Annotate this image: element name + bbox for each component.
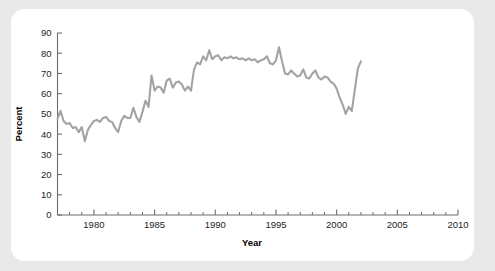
x-tick-label: 1980 bbox=[83, 219, 104, 230]
x-tick-label: 1995 bbox=[265, 219, 286, 230]
y-axis-ticks: 0102030405060708090 bbox=[41, 27, 62, 220]
x-axis-ticks: 1980198519901995200020052010 bbox=[58, 210, 469, 231]
y-tick-label: 10 bbox=[41, 189, 52, 200]
y-tick-label: 70 bbox=[41, 68, 52, 79]
y-tick-label: 30 bbox=[41, 149, 52, 160]
y-tick-label: 80 bbox=[41, 48, 52, 59]
x-tick-label: 2005 bbox=[387, 219, 408, 230]
x-tick-label: 2000 bbox=[326, 219, 347, 230]
chart-figure: 0102030405060708090 19801985199019952000… bbox=[0, 0, 495, 271]
y-tick-label: 60 bbox=[41, 88, 52, 99]
x-tick-label: 1990 bbox=[205, 219, 226, 230]
y-axis-title: Percent bbox=[13, 106, 24, 142]
x-tick-label: 1985 bbox=[144, 219, 165, 230]
y-tick-label: 20 bbox=[41, 169, 52, 180]
x-axis-title: Year bbox=[242, 237, 262, 248]
screenshot-root: 0102030405060708090 19801985199019952000… bbox=[0, 0, 495, 271]
y-tick-label: 0 bbox=[46, 209, 51, 220]
y-tick-label: 50 bbox=[41, 108, 52, 119]
y-tick-label: 90 bbox=[41, 27, 52, 38]
line-chart: 0102030405060708090 19801985199019952000… bbox=[0, 0, 495, 271]
data-series-line bbox=[58, 47, 361, 141]
y-tick-label: 40 bbox=[41, 129, 52, 140]
x-tick-label: 2010 bbox=[447, 219, 468, 230]
